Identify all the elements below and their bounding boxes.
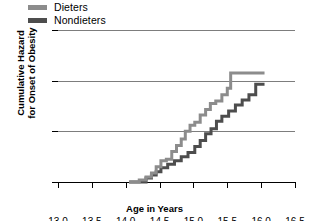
series-line-nondieters bbox=[129, 84, 264, 182]
cumulative-hazard-chart: Dieters Nondieters Cumulative Hazard for… bbox=[0, 0, 309, 221]
legend-label-nondieters: Nondieters bbox=[54, 15, 106, 26]
x-tick-mark bbox=[58, 182, 59, 188]
y-axis-title: Cumulative Hazard for Onset of Obesity bbox=[15, 3, 37, 143]
plot-area: 0.000.100.200.30 13.013.514.014.515.015.… bbox=[58, 30, 295, 182]
legend-item-nondieters: Nondieters bbox=[28, 15, 106, 26]
x-axis-line bbox=[58, 182, 295, 183]
chart-legend: Dieters Nondieters bbox=[28, 2, 106, 28]
x-tick-mark bbox=[261, 182, 262, 188]
x-tick-mark bbox=[160, 182, 161, 188]
series-lines bbox=[58, 30, 295, 182]
x-tick-mark bbox=[126, 182, 127, 188]
y-axis-title-line2: for Onset of Obesity bbox=[26, 3, 37, 143]
legend-item-dieters: Dieters bbox=[28, 2, 106, 13]
x-axis-title: Age in Years bbox=[0, 203, 309, 214]
legend-label-dieters: Dieters bbox=[54, 2, 88, 13]
x-tick-mark bbox=[92, 182, 93, 188]
y-axis-title-line1: Cumulative Hazard bbox=[15, 3, 26, 143]
x-tick-mark bbox=[295, 182, 296, 188]
x-tick-mark bbox=[227, 182, 228, 188]
x-tick-label: 16.5 bbox=[275, 216, 309, 221]
series-line-dieters bbox=[129, 73, 264, 182]
x-tick-mark bbox=[193, 182, 194, 188]
